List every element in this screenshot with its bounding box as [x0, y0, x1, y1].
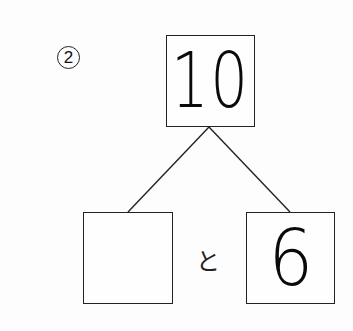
- whole-number-box[interactable]: 10: [166, 35, 255, 127]
- problem-number: 2: [64, 49, 73, 66]
- part-value-six: 6: [268, 219, 313, 297]
- whole-number-value: 10: [171, 43, 250, 119]
- part-box-blank[interactable]: [83, 212, 173, 304]
- connector-line-left: [128, 127, 209, 212]
- connector-word-to: と: [196, 250, 220, 274]
- problem-number-badge: 2: [57, 46, 80, 69]
- part-box-six[interactable]: 6: [246, 212, 335, 304]
- connector-line-right: [209, 127, 290, 212]
